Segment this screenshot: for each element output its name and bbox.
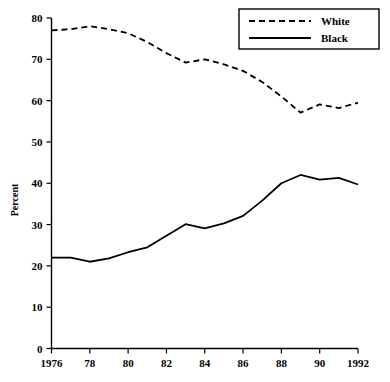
x-tick-label-1982: 82 <box>161 357 173 369</box>
line-chart: 01020304050607080 1976788082848688901992… <box>0 0 390 382</box>
x-tick-label-1976: 1976 <box>41 357 64 369</box>
x-tick-label-1990: 90 <box>314 357 326 369</box>
x-tick-label-1980: 80 <box>123 357 135 369</box>
x-tick-label-1984: 84 <box>199 357 211 369</box>
y-tick-label-0: 0 <box>37 343 43 355</box>
legend-frame <box>239 9 379 49</box>
y-tick-label-20: 20 <box>32 260 44 272</box>
x-axis-tick-labels: 1976788082848688901992 <box>41 357 370 369</box>
chart-background <box>0 0 390 382</box>
x-tick-label-1992: 1992 <box>347 357 370 369</box>
x-tick-label-1986: 86 <box>238 357 250 369</box>
y-tick-label-50: 50 <box>32 136 44 148</box>
legend-label-white: White <box>321 15 350 27</box>
x-tick-label-1978: 78 <box>84 357 96 369</box>
y-tick-label-30: 30 <box>32 219 44 231</box>
chart-legend: White Black <box>239 9 379 49</box>
legend-label-black: Black <box>321 32 349 44</box>
y-tick-label-70: 70 <box>32 53 44 65</box>
y-tick-label-10: 10 <box>32 301 44 313</box>
y-tick-label-40: 40 <box>32 177 44 189</box>
y-axis-title: Percent <box>9 183 20 216</box>
y-tick-label-60: 60 <box>32 95 44 107</box>
y-tick-label-80: 80 <box>32 12 44 24</box>
x-tick-label-1988: 88 <box>276 357 288 369</box>
y-axis-tick-labels: 01020304050607080 <box>32 12 44 355</box>
chart-figure: 01020304050607080 1976788082848688901992… <box>0 0 390 382</box>
